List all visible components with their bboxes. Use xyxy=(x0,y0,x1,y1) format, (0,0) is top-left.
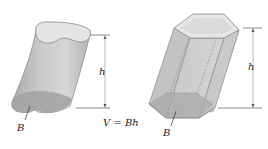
right-base-label: B xyxy=(162,127,170,138)
left-height-label: h xyxy=(99,66,105,77)
left-base-label: B xyxy=(16,122,24,133)
oblique-hexagonal-prism xyxy=(149,14,239,118)
oblique-cylinder xyxy=(12,22,91,113)
right-height-label: h xyxy=(248,61,254,72)
volume-formula: V = Bh xyxy=(103,117,139,128)
volume-diagram: h B V = Bh h B xyxy=(0,0,268,149)
